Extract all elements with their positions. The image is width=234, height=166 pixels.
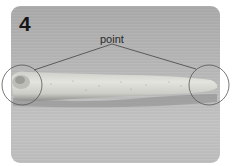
right-end-circle [189,65,229,105]
annotation-overlay [0,0,234,166]
pointer-line-left [34,44,112,70]
pointer-line-right [112,44,196,69]
left-end-circle [2,65,42,105]
